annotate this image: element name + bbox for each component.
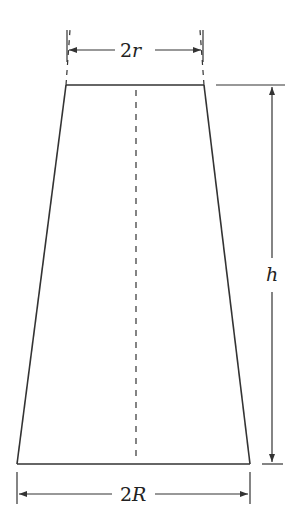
label-2r: 2r	[120, 39, 143, 61]
right-side	[204, 85, 250, 464]
frustum-outline	[17, 85, 250, 464]
label-h: h	[266, 263, 278, 285]
left-side	[17, 85, 66, 464]
frustum-diagram: 2r h 2R	[0, 0, 299, 527]
label-2R: 2R	[120, 483, 146, 505]
